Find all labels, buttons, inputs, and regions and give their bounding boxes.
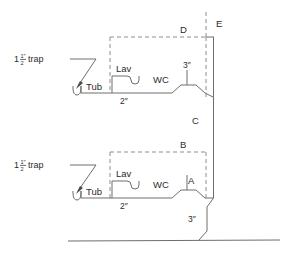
plumbing-riser-diagram: 1 1″ 2 trap 1 1″ 2 trap Tub Lav WC 2″ 3″… bbox=[0, 0, 283, 259]
upper-wc-connection bbox=[172, 85, 213, 97]
lower-wc-connection bbox=[172, 190, 213, 198]
lower-tub-label: Tub bbox=[86, 186, 102, 197]
upper-tub-label: Tub bbox=[86, 81, 102, 92]
upper-lav-label: Lav bbox=[116, 63, 132, 74]
box-label-d: D bbox=[180, 24, 187, 35]
plumbing-diagram-page: 1 1″ 2 trap 1 1″ 2 trap Tub Lav WC 2″ 3″… bbox=[0, 0, 283, 259]
stack-label-e: E bbox=[216, 18, 222, 29]
upper-branch-size-label: 2″ bbox=[120, 96, 128, 106]
lower-trap-leader-arrowhead bbox=[76, 186, 83, 194]
lower-trap-word-label: trap bbox=[28, 160, 44, 170]
stack-segment-lower-slant bbox=[199, 198, 214, 240]
lower-trap-fraction-numerator: 1″ bbox=[21, 159, 26, 165]
segment-label-a: A bbox=[188, 175, 195, 186]
upper-trap-leader-arrowhead bbox=[76, 81, 83, 89]
trap-callout-leaders bbox=[70, 59, 96, 194]
box-label-b: B bbox=[180, 139, 186, 150]
upper-trap-word-label: trap bbox=[28, 54, 44, 64]
stack-label-c: C bbox=[192, 115, 199, 126]
building-drain-line bbox=[68, 240, 280, 241]
lower-trap-fraction-denominator: 2 bbox=[21, 166, 24, 172]
lower-trap-callout-label: 1 1″ 2 trap bbox=[14, 159, 44, 172]
upper-trap-fraction-numerator: 1″ bbox=[21, 53, 26, 59]
lower-stack-size-label: 3″ bbox=[188, 214, 196, 224]
lower-lav-label: Lav bbox=[116, 168, 132, 179]
upper-trap-whole-number: 1 bbox=[14, 54, 19, 64]
lower-lav-trap bbox=[112, 181, 139, 198]
upper-lav-trap bbox=[112, 76, 139, 93]
lower-branch-size-label: 2″ bbox=[120, 201, 128, 211]
upper-trap-fraction-denominator: 2 bbox=[21, 60, 24, 66]
lower-wc-label: WC bbox=[153, 179, 169, 190]
upper-wc-size-label: 3″ bbox=[183, 60, 191, 70]
upper-wc-label: WC bbox=[153, 74, 169, 85]
lower-trap-whole-number: 1 bbox=[14, 160, 19, 170]
upper-trap-callout-label: 1 1″ 2 trap bbox=[14, 53, 44, 66]
